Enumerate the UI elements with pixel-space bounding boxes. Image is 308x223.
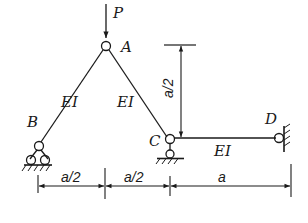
dimension-label-1: a/2 [61,169,81,185]
node-label-c: C [149,132,161,150]
vertical-dimension-label: a/2 [160,78,176,98]
dimension-label-3: a [218,169,226,185]
wall-hinge-d-icon [275,124,291,152]
node-label-b: B [26,113,38,131]
node-label-d: D [264,110,277,128]
member-label-ba: EI [60,93,79,111]
node-label-a: A [119,38,132,56]
member-label-ac: EI [116,93,135,111]
hinge-a-icon [102,42,111,51]
dimension-label-2: a/2 [124,169,144,185]
structural-diagram: P EI EI EI A B C [0,0,308,223]
roller-support-b-icon [22,142,52,172]
member-label-cd: EI [213,142,232,160]
load-label-p: P [112,4,124,22]
